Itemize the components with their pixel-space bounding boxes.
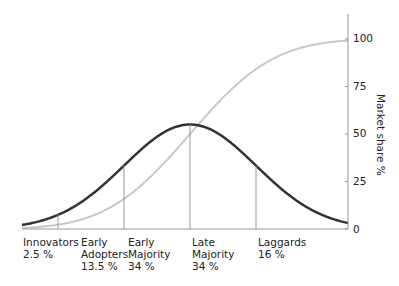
segment-label-innovators: Innovators 2.5 % <box>23 236 79 260</box>
y-tick-100: 100 <box>353 32 373 44</box>
y-tick-25: 25 <box>353 175 366 187</box>
segment-label-early-adopters: Early Adopters 13.5 % <box>81 236 128 272</box>
y-tick-75: 75 <box>353 80 366 92</box>
segment-label-early-majority: Early Majority 34 % <box>128 236 170 272</box>
cumulative-market-share-curve <box>22 41 348 228</box>
segment-label-late-majority: Late Majority 34 % <box>192 236 234 272</box>
y-tick-50: 50 <box>353 127 366 139</box>
y-axis-label: Market share % <box>375 94 387 176</box>
y-tick-0: 0 <box>353 223 360 235</box>
segment-label-laggards: Laggards 16 % <box>258 236 306 260</box>
